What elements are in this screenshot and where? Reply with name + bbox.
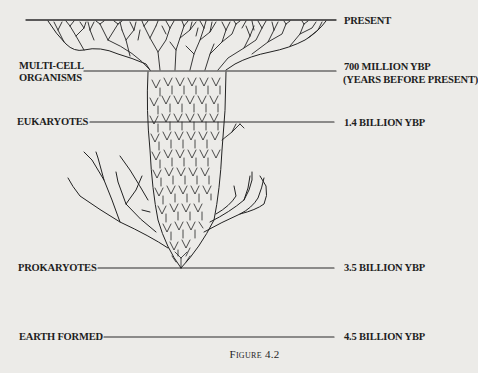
figure-caption: Figure 4.2: [0, 348, 473, 360]
label-multicell-line2: ORGANISMS: [19, 72, 82, 84]
label-1-4-billion-ybp: 1.4 BILLION YBP: [344, 117, 425, 129]
label-eukaryotes: EUKARYOTES: [17, 116, 88, 128]
label-earth-formed: EARTH FORMED: [19, 331, 103, 343]
label-3-5-billion-ybp: 3.5 BILLION YBP: [344, 262, 425, 274]
label-prokaryotes: PROKARYOTES: [18, 262, 97, 274]
label-years-before-present: (YEARS BEFORE PRESENT): [343, 74, 478, 86]
label-4-5-billion-ybp: 4.5 BILLION YBP: [344, 331, 425, 343]
branching-tree-icon: [48, 21, 326, 268]
label-present: PRESENT: [344, 15, 391, 27]
label-700-million-ybp: 700 MILLION YBP: [344, 61, 430, 73]
label-multicell-line1: MULTI-CELL: [19, 60, 84, 72]
